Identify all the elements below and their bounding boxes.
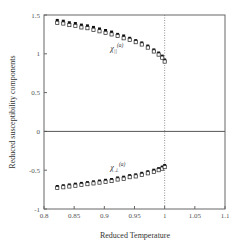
susceptibility-chart: 0.80.850.90.9511.051.1-1-0.500.511.5 χ||…	[0, 0, 240, 251]
open-square-marker	[62, 22, 65, 25]
open-square-marker	[116, 178, 119, 181]
open-square-marker	[80, 26, 83, 29]
open-square-marker	[92, 182, 95, 185]
open-square-marker	[157, 169, 160, 172]
open-square-marker	[110, 179, 113, 182]
x-tick-label: 1.05	[189, 212, 202, 220]
open-square-marker	[146, 46, 149, 49]
open-square-marker	[122, 37, 125, 40]
open-square-marker	[74, 184, 77, 187]
open-square-marker	[163, 60, 166, 63]
open-square-marker	[98, 30, 101, 33]
open-square-marker	[134, 175, 137, 178]
open-square-marker	[92, 28, 95, 31]
open-square-marker	[152, 170, 155, 173]
open-square-marker	[86, 183, 89, 186]
open-square-marker	[104, 180, 107, 183]
series-chi_parallel_open	[56, 21, 167, 63]
x-tick-label: 0.8	[40, 212, 49, 220]
chi-perpendicular-label: χ⊥(a)	[109, 161, 125, 173]
y-tick-label: -0.5	[29, 167, 41, 175]
chi-parallel-label: χ||(a)	[109, 42, 123, 54]
open-square-marker	[74, 24, 77, 27]
open-square-marker	[152, 50, 155, 53]
x-axis-label: Reduced Temperature	[100, 231, 171, 240]
open-square-marker	[134, 41, 137, 44]
open-square-marker	[68, 185, 71, 188]
open-square-marker	[161, 56, 164, 59]
open-square-marker	[122, 177, 125, 180]
y-tick-label: -1	[34, 206, 40, 214]
open-square-marker	[146, 172, 149, 175]
x-tick-label: 1.1	[221, 212, 230, 220]
open-square-marker	[140, 43, 143, 46]
y-tick-label: 0	[37, 128, 41, 136]
y-axis-label: Reduced susceptibility components	[8, 55, 17, 168]
open-square-marker	[62, 186, 65, 189]
x-tick-label: 0.9	[100, 212, 109, 220]
open-square-marker	[68, 23, 71, 26]
open-square-marker	[104, 31, 107, 34]
x-tick-label: 0.95	[128, 212, 141, 220]
y-tick-label: 1	[37, 50, 41, 58]
open-square-marker	[157, 53, 160, 56]
open-square-marker	[56, 186, 59, 189]
y-tick-label: 0.5	[31, 89, 40, 97]
y-tick-label: 1.5	[31, 12, 40, 20]
open-square-marker	[163, 165, 166, 168]
x-tick-label: 0.85	[68, 212, 81, 220]
open-square-marker	[86, 27, 89, 30]
series-chi_parallel_filled	[56, 19, 166, 62]
open-square-marker	[140, 173, 143, 176]
series-annotations: χ||(a)χ⊥(a)	[109, 42, 125, 173]
open-square-marker	[128, 38, 131, 41]
open-square-marker	[128, 176, 131, 179]
open-square-marker	[56, 21, 59, 24]
x-tick-label: 1	[163, 212, 167, 220]
open-square-marker	[110, 33, 113, 36]
open-square-marker	[116, 34, 119, 37]
open-square-marker	[98, 181, 101, 184]
open-square-marker	[80, 183, 83, 186]
